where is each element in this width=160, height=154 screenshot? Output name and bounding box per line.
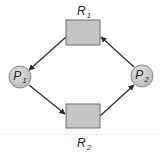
process-p1-label: P1 <box>13 70 26 85</box>
process-p2-subscript: 2 <box>144 75 148 84</box>
resource-r1-label: R1 <box>77 5 91 20</box>
resource-r2-subscript: 2 <box>87 143 91 152</box>
edge-p1-to-r2 <box>29 85 65 114</box>
process-p1-letter: P <box>13 69 21 83</box>
resource-r2-box <box>66 104 100 128</box>
edge-r2-to-p2 <box>100 85 134 116</box>
process-p1-subscript: 1 <box>22 76 26 85</box>
edge-r1-to-p1 <box>29 37 66 70</box>
resource-r1-box <box>66 20 100 45</box>
resource-r1-letter: R <box>77 4 86 18</box>
resource-r2-label: R2 <box>77 137 91 152</box>
process-p2-label: P2 <box>135 69 148 84</box>
resource-r2-letter: R <box>77 136 86 150</box>
resource-r1-subscript: 1 <box>87 11 91 20</box>
process-p2-letter: P <box>135 68 143 82</box>
edge-p2-to-r1 <box>101 37 134 67</box>
